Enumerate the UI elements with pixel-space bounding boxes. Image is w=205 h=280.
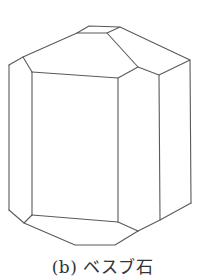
upper-left-side-edge — [9, 57, 23, 65]
upper-right-face — [120, 27, 190, 75]
upper-front-face — [32, 33, 138, 78]
crystal-drawing — [0, 0, 205, 250]
caption-text: ベスブ石 — [83, 257, 153, 277]
top-face — [77, 26, 120, 33]
right-outer-edge — [190, 60, 191, 203]
lower-left-edge — [9, 210, 32, 223]
caption-label: (b) — [52, 257, 78, 277]
upper-left-face — [23, 33, 77, 72]
bottom-face — [24, 223, 138, 245]
figure-caption: (b) ベスブ石 — [0, 253, 205, 278]
lower-front-edge — [32, 215, 138, 231]
right-inner-edge — [159, 75, 160, 220]
lower-right-edge — [138, 203, 191, 231]
